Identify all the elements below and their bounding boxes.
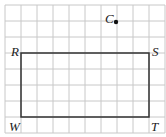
label-t: T <box>151 120 158 133</box>
label-w: W <box>9 120 20 133</box>
label-r: R <box>11 45 19 58</box>
label-s: S <box>152 45 159 58</box>
grid-lines <box>5 5 165 133</box>
point-c <box>114 20 118 24</box>
label-c: C <box>105 12 114 25</box>
grid-diagram <box>0 0 166 137</box>
